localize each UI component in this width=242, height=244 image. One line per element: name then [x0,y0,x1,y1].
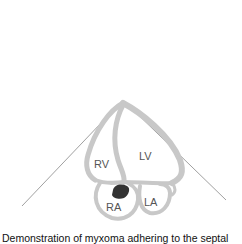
label-lv: LV [139,150,152,162]
label-la: LA [144,196,158,208]
label-ra: RA [106,201,122,213]
label-rv: RV [94,158,110,170]
figure-caption: Demonstration of myxoma adhering to the … [2,232,242,244]
myxoma-mass [112,185,129,199]
